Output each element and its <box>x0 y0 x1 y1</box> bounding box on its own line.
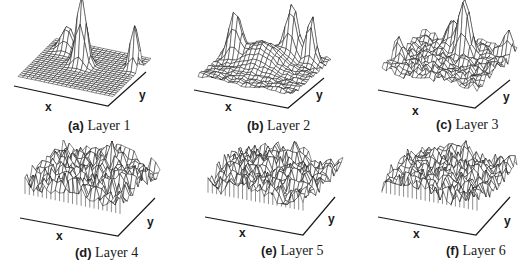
x-axis-label: x <box>413 227 420 241</box>
x-axis-label: x <box>45 100 52 114</box>
y-axis-label: y <box>328 212 335 226</box>
mesh <box>18 0 151 96</box>
x-axis-label: x <box>239 226 246 240</box>
y-axis-label: y <box>316 88 323 102</box>
panel-a: x y (a) Layer 1 <box>0 0 176 138</box>
y-axis-label: y <box>139 88 146 102</box>
panel-c: x y (c) Layer 3 <box>350 0 526 138</box>
y-axis-label: y <box>504 214 511 228</box>
caption-c: (c) Layer 3 <box>436 117 499 133</box>
y-axis-label: y <box>503 90 510 104</box>
caption-d: (d) Layer 4 <box>75 245 138 261</box>
x-axis-label: x <box>225 100 232 114</box>
panel-e: x y (e) Layer 5 <box>180 140 356 278</box>
mesh <box>382 141 517 211</box>
panel-f: x y (f) Layer 6 <box>350 140 526 278</box>
mesh <box>25 140 160 214</box>
x-axis-label: x <box>56 229 63 243</box>
mesh <box>198 5 331 94</box>
axes <box>205 197 335 235</box>
y-axis-label: y <box>147 215 154 229</box>
caption-a: (a) Layer 1 <box>68 118 131 134</box>
caption-f: (f) Layer 6 <box>446 243 506 259</box>
caption-b: (b) Layer 2 <box>247 118 310 134</box>
mesh <box>208 142 343 211</box>
x-axis-label: x <box>412 104 419 118</box>
caption-e: (e) Layer 5 <box>261 243 324 259</box>
axes <box>378 197 510 235</box>
panel-d: x y (d) Layer 4 <box>0 140 176 278</box>
mesh <box>382 0 517 91</box>
axes <box>20 198 155 236</box>
axes <box>378 80 510 108</box>
panel-b: x y (b) Layer 2 <box>180 0 356 138</box>
